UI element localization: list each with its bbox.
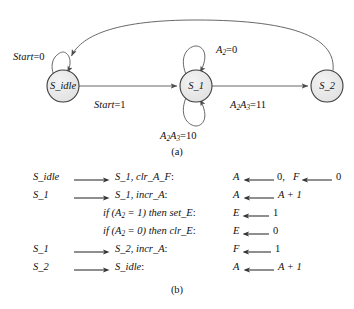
rtl-operation-listing: S_idle S_1, clr_A_F: A 0, F — [0, 160, 354, 309]
rtl-row-3-condition: if (A2 = 1) then set_E: — [103, 207, 196, 220]
rtl-row-3-op-value-text: 1 — [273, 207, 278, 218]
rtl-row-6-op-value-text: A + 1 — [278, 261, 302, 272]
rtl-row-4-op-value-text: 0 — [273, 225, 278, 236]
transition-label-start-1: Start=1 — [94, 100, 126, 111]
rtl-row-1-op2-value-text: 0 — [336, 171, 341, 182]
rtl-row-1-op1-value-text: 0, — [277, 171, 285, 182]
rtl-row-1-op1-value: 0, — [277, 171, 285, 182]
label-val: 0 — [232, 44, 237, 55]
transition-s2-to-idle — [72, 20, 334, 71]
rtl-row-2-to: S_1, incr_A: — [115, 189, 168, 200]
rtl-row-2-to-state: S_1 — [115, 189, 131, 200]
rtl-row-2-op-value: A + 1 — [278, 189, 302, 200]
rtl-row-5-op-value: 1 — [275, 243, 280, 254]
rtl-row-4-action: clr_E — [169, 225, 192, 236]
part-a-caption: (a) — [0, 146, 354, 157]
rtl-row-5-to: S_2, incr_A: — [115, 243, 168, 254]
rtl-row-6: S_2 S_idle: A A + 1 — [0, 261, 354, 275]
rtl-row-3: if (A2 = 1) then set_E: E 1 — [0, 207, 354, 221]
state-transition-diagram: S_idle S_1 S_2 Start=0 Start=1 A2=0 A2A3… — [0, 0, 354, 160]
rtl-row-6-from: S_2 — [33, 261, 49, 272]
transition-label-a2a3-10: A2A3=10 — [160, 131, 196, 143]
rtl-row-6-assign-arrow-icon — [244, 266, 274, 274]
rtl-row-3-action: set_E — [169, 207, 192, 218]
rtl-row-1-op2-dest: F — [293, 171, 299, 182]
label-val: 10 — [186, 130, 197, 141]
rtl-row-2-from: S_1 — [33, 189, 49, 200]
state-label-s-idle: S_idle — [38, 81, 88, 92]
rtl-row-1-operation: A — [233, 171, 239, 182]
transition-label-a2-0: A2=0 — [216, 45, 237, 57]
rtl-row-5-op-value-text: 1 — [275, 243, 280, 254]
rtl-row-5-to-state: S_2 — [115, 243, 131, 254]
rtl-row-3-condition-text: if (A2 = 1) then — [103, 207, 167, 218]
rtl-row-1-from: S_idle — [33, 171, 59, 182]
rtl-row-4-op-dest-text: E — [233, 225, 239, 236]
rtl-row-5: S_1 S_2, incr_A: F 1 — [0, 243, 354, 257]
rtl-row-1-assign-arrow-1-icon — [244, 176, 274, 184]
rtl-row-4: if (A2 = 0) then clr_E: E 0 — [0, 225, 354, 239]
rtl-row-5-op-dest: F — [233, 243, 239, 254]
figure-root: S_idle S_1 S_2 Start=0 Start=1 A2=0 A2A3… — [0, 0, 354, 309]
transition-label-a2a3-11: A2A3=11 — [230, 100, 266, 112]
rtl-row-6-to: S_idle: — [115, 261, 144, 272]
rtl-row-5-arrow-icon — [74, 248, 110, 256]
rtl-row-2: S_1 S_1, incr_A: A A + 1 — [0, 189, 354, 203]
rtl-row-6-op-value: A + 1 — [278, 261, 302, 272]
rtl-row-3-assign-arrow-icon — [243, 212, 269, 220]
rtl-row-4-assign-arrow-icon — [243, 230, 269, 238]
rtl-row-2-assign-arrow-icon — [244, 194, 274, 202]
rtl-row-5-from: S_1 — [33, 243, 49, 254]
rtl-row-6-op-dest-text: A — [233, 261, 239, 272]
rtl-row-1-to: S_1, clr_A_F: — [115, 171, 174, 182]
rtl-row-6-to-state: S_idle — [115, 261, 141, 272]
rtl-row-6-op-dest: A — [233, 261, 239, 272]
rtl-row-5-assign-arrow-icon — [243, 248, 271, 256]
rtl-row-4-op-value: 0 — [273, 225, 278, 236]
rtl-row-4-condition-text: if (A2 = 0) then — [103, 225, 167, 236]
rtl-row-3-op-dest: E — [233, 207, 239, 218]
state-label-s-2: S_2 — [307, 81, 347, 92]
label-val: 0 — [39, 51, 44, 62]
rtl-row-1-to-state: S_1 — [115, 171, 131, 182]
rtl-row-6-arrow-icon — [74, 266, 110, 274]
rtl-row-1: S_idle S_1, clr_A_F: A 0, F — [0, 171, 354, 185]
rtl-row-3-op-dest-text: E — [233, 207, 239, 218]
rtl-row-5-op-dest-text: F — [233, 243, 239, 254]
rtl-row-3-op-value: 1 — [273, 207, 278, 218]
rtl-row-1-op2-value: 0 — [336, 171, 341, 182]
transition-label-start-0: Start=0 — [13, 52, 45, 63]
label-var-start: Start — [13, 51, 33, 62]
rtl-row-2-arrow-icon — [74, 194, 110, 202]
rtl-row-4-condition: if (A2 = 0) then clr_E: — [103, 225, 196, 238]
state-label-s-1: S_1 — [176, 81, 216, 92]
rtl-row-1-op2-dest-text: F — [293, 171, 299, 182]
label-val: 11 — [256, 99, 266, 110]
rtl-row-1-op1-dest: A — [233, 171, 239, 182]
rtl-row-2-op-dest-text: A — [233, 189, 239, 200]
rtl-row-1-arrow-icon — [74, 176, 110, 184]
rtl-row-1-assign-arrow-2-icon — [302, 176, 332, 184]
part-b-caption: (b) — [0, 284, 354, 295]
label-val: 1 — [120, 99, 125, 110]
rtl-row-2-op-dest: A — [233, 189, 239, 200]
rtl-row-5-to-action: incr_A — [136, 243, 165, 254]
rtl-row-4-op-dest: E — [233, 225, 239, 236]
rtl-row-2-to-action: incr_A — [136, 189, 165, 200]
rtl-row-1-to-action: clr_A_F — [136, 171, 171, 182]
rtl-row-2-op-value-text: A + 1 — [278, 189, 302, 200]
label-var-start: Start — [94, 99, 114, 110]
